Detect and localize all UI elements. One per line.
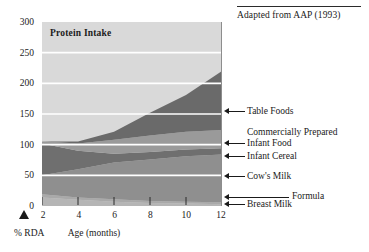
x-tick-4: 4 — [76, 210, 81, 220]
source-rule — [237, 6, 361, 7]
callout-cows-milk: Cow's Milk — [247, 171, 291, 181]
y-tick-250: 250 — [0, 48, 34, 58]
x-tick-6: 6 — [112, 210, 117, 220]
plot-area: Protein Intake — [42, 22, 222, 206]
y-tick-50: 50 — [0, 170, 34, 180]
callout-commercially-prepared: Commercially Prepared — [247, 127, 337, 137]
y-tick-300: 300 — [0, 17, 34, 27]
y-tick-150: 150 — [0, 109, 34, 119]
callout-table-foods: Table Foods — [247, 106, 294, 116]
y-axis-title: % RDA — [14, 228, 44, 238]
callout-formula: Formula — [292, 191, 324, 201]
callout-infant-cereal: Infant Cereal — [247, 151, 297, 161]
x-tick-2: 2 — [41, 210, 46, 220]
rda-marker-icon — [19, 210, 29, 219]
area-bands — [42, 71, 222, 206]
x-axis-title: Age (months) — [39, 228, 149, 238]
x-tick-8: 8 — [148, 210, 153, 220]
x-tick-10: 10 — [181, 210, 191, 220]
table-foods-leader — [229, 111, 245, 112]
infant-food-leader — [229, 143, 245, 144]
source-text: Adapted from AAP (1993) — [237, 10, 363, 20]
protein-intake-figure: Adapted from AAP (1993) 300 250 200 150 … — [0, 0, 369, 252]
y-tick-100: 100 — [0, 140, 34, 150]
formula-leader — [229, 197, 289, 198]
source-note: Adapted from AAP (1993) — [237, 6, 363, 20]
infant-cereal-leader — [229, 156, 245, 157]
plot-title: Protein Intake — [50, 28, 111, 38]
callout-infant-food: Infant Food — [247, 138, 292, 148]
cows-milk-leader — [229, 176, 245, 177]
x-tick-12: 12 — [216, 210, 226, 220]
callout-breast-milk: Breast Milk — [247, 199, 292, 209]
breast-milk-leader — [229, 204, 245, 205]
y-tick-200: 200 — [0, 78, 34, 88]
stacked-area-chart — [42, 22, 222, 206]
